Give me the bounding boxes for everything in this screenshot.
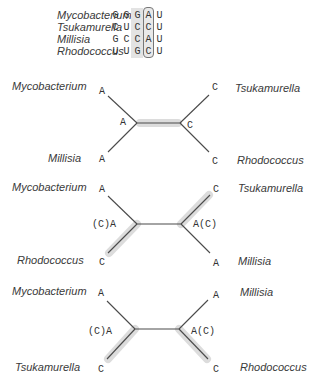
tree2-bottom-left-state: C xyxy=(99,257,105,268)
tree3-bottom-right-species: Rhodococcus xyxy=(240,361,307,373)
tree3-right-node-state: A(C) xyxy=(191,326,215,337)
tree2-right-node-state: A(C) xyxy=(193,219,217,230)
tree1-right-node-state: C xyxy=(187,120,193,131)
tree1-bottom-left-state: A xyxy=(99,154,105,165)
tree3-top-left-species: Mycobacterium xyxy=(12,285,87,297)
tree2-bottom-right-state: A xyxy=(213,258,219,269)
tree1-top-right-species: Tsukamurella xyxy=(235,82,300,94)
tree2-bottom-left-species: Rhodococcus xyxy=(17,254,84,266)
tree2-top-right-state: C xyxy=(213,184,219,195)
tree1-top-left-state: A xyxy=(99,86,105,97)
tree1-top-left-species: Mycobacterium xyxy=(12,80,87,92)
tree1-bottom-right-species: Rhodococcus xyxy=(237,154,304,166)
tree2-top-left-species: Mycobacterium xyxy=(12,181,87,193)
tree3-top-right-species: Millisia xyxy=(240,286,273,298)
tree2-top-left-state: A xyxy=(99,184,105,195)
tree2-top-right-species: Tsukamurella xyxy=(238,182,303,194)
tree1-bottom-right-state: C xyxy=(212,156,218,167)
tree1-bottom-left-species: Millisia xyxy=(48,152,81,164)
tree3-bottom-left-species: Tsukamurella xyxy=(15,361,80,373)
tree3-top-left-state: A xyxy=(98,288,104,299)
tree3-left-node-state: (C)A xyxy=(88,326,112,337)
tree3-bottom-left-state: C xyxy=(98,364,104,375)
tree3-top-right-state: A xyxy=(213,290,219,301)
tree2-bottom-right-species: Millisia xyxy=(238,255,271,267)
tree1-left-node-state: A xyxy=(120,117,126,128)
tree3-bottom-right-state: C xyxy=(213,364,219,375)
tree2-left-node-state: (C)A xyxy=(92,219,116,230)
tree1-top-right-state: C xyxy=(212,82,218,93)
